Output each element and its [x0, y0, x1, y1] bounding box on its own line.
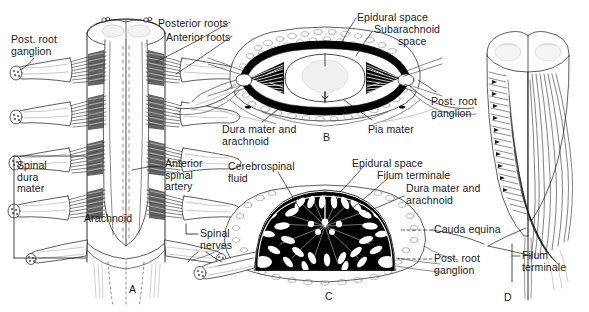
- leader-a-spinal-nerves-1: [188, 252, 198, 262]
- label-anterior-spinal-artery: Anteriorspinalartery: [165, 158, 203, 193]
- anatomical-artwork: [0, 0, 589, 312]
- leader-a-spinal-nerves-bracket: [186, 224, 198, 234]
- leader-b-post-root-ganglion: [418, 80, 436, 92]
- label-posterior-roots: Posterior roots: [158, 18, 228, 30]
- label-post-root-ganglion-a: Post. rootganglion: [11, 34, 57, 57]
- label-filum-terminale-d: Filumterminale: [522, 250, 566, 273]
- label-dura-mater-arachnoid-b: Dura mater andarachnoid: [222, 124, 296, 147]
- figure-canvas: Post. rootganglion Posterior roots Anter…: [0, 0, 589, 312]
- leader-a-anterior-spinal-artery: [132, 166, 163, 170]
- label-subarachnoid-b: Subarachnoid: [374, 24, 440, 36]
- label-subarachnoid-space-b: space: [398, 36, 427, 48]
- panel-letter-d: D: [504, 291, 512, 303]
- label-post-root-ganglion-b: Post. rootganglion: [431, 96, 477, 119]
- label-spinal-nerves: Spinalnerves: [200, 228, 232, 251]
- label-cauda-equina: Cauda equina: [434, 224, 501, 236]
- leader-b-epidural-space: [342, 18, 356, 42]
- label-pia-mater: Pia mater: [368, 124, 414, 136]
- panel-letter-b: B: [323, 131, 330, 143]
- label-cerebrospinal-fluid: Cerebrospinalfluid: [228, 161, 295, 184]
- label-dura-mater-arachnoid-c: Dura mater andarachnoid: [406, 183, 480, 206]
- leader-a-spinal-nerves-2: [206, 252, 222, 262]
- label-epidural-space-c: Epidural space: [352, 158, 423, 170]
- leader-b-pia-mater: [344, 100, 372, 120]
- leader-c-filum-terminale: [334, 178, 388, 222]
- label-filum-terminale-c: Filum terminale: [377, 170, 450, 182]
- label-spinal-dura-mater: Spinalduramater: [17, 160, 47, 195]
- leader-c-epidural-space: [340, 166, 364, 192]
- panel-letter-c: C: [325, 290, 333, 302]
- label-arachnoid: Arachnoid: [84, 213, 132, 225]
- label-anterior-roots: Anterior roots: [166, 32, 230, 44]
- label-post-root-ganglion-c: Post. rootganglion: [434, 253, 480, 276]
- leader-c-dura-mater: [366, 196, 404, 212]
- leader-a-post-root-ganglion: [20, 58, 34, 70]
- panel-letter-a: A: [129, 283, 136, 295]
- label-epidural-space-b: Epidural space: [357, 12, 428, 24]
- leader-lines: [0, 0, 589, 312]
- leader-b-dura-mater: [262, 106, 282, 122]
- leader-b-subarachnoid-space: [356, 32, 372, 56]
